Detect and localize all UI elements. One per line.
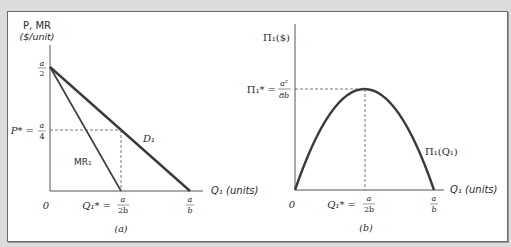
qstar-num-b: a [367,194,372,203]
a-over-b-den-a: b [187,206,192,215]
tick-a-over-2-den: 2 [39,69,44,78]
qstar-den-a: 2b [118,206,128,215]
demand-label: D₁ [142,133,155,144]
panel-b-origin: 0 [289,199,296,210]
panel-a-y-label-2: ($/unit) [19,31,54,42]
profit-curve [295,89,434,190]
pistar-label: Π₁* = [247,84,276,95]
qstar-den-b: 2b [364,205,374,214]
panel-b-x-label: Q₁ (units) [450,184,497,195]
panel-b: Π₁($) Π₁* = a² 8b 0 Q₁* = a 2b a b Q₁ (u… [247,24,498,233]
pistar-den: 8b [279,91,289,100]
a-over-b-num-a: a [188,195,193,204]
panel-b-y-label: Π₁($) [263,32,290,43]
panel-a-origin: 0 [43,200,50,211]
pstar-num: a [40,121,45,130]
a-over-b-den-b: b [431,205,436,214]
qstar-label-a: Q₁* = [82,200,111,211]
pstar-label: P* = [10,125,34,136]
demand-curve [50,67,190,191]
a-over-b-num-b: a [432,194,437,203]
pistar-num: a² [280,79,288,88]
marginal-revenue-curve [50,67,121,191]
diagram-canvas: P, MR ($/unit) a 2 P* = a 4 0 Q₁* = a 2b… [0,0,511,247]
qstar-label-b: Q₁* = [327,199,356,210]
panel-a-caption: (a) [114,223,127,234]
panel-a-x-label: Q₁ (units) [211,185,258,196]
panel-a-y-label-1: P, MR [23,20,51,31]
pstar-den: 4 [39,132,44,141]
panel-a: P, MR ($/unit) a 2 P* = a 4 0 Q₁* = a 2b… [10,20,259,234]
mr-label: MR₁ [74,157,92,167]
panel-b-caption: (b) [359,222,373,233]
profit-curve-label: Π₁(Q₁) [425,146,458,157]
qstar-num-a: a [121,195,126,204]
tick-a-over-2-num: a [40,59,45,68]
